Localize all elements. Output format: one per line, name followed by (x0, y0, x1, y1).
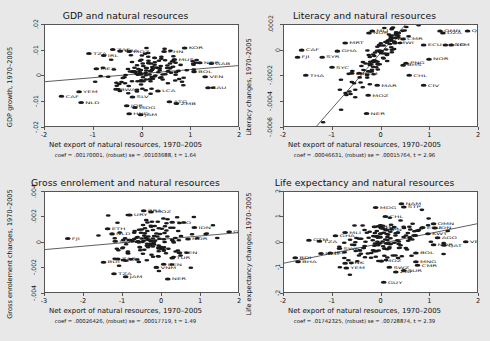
y-tick-mark (41, 101, 44, 102)
data-point: YEM (448, 43, 470, 47)
y-axis-label: Literacy changes, 1970–2005 (245, 39, 253, 136)
data-point: ECU (421, 43, 442, 47)
plot-box: BDIBHAGTMTZANLDIRLGHAMLISWEDNKYEMMDGCHLC… (283, 191, 478, 294)
svg-text:BEN: BEN (168, 262, 182, 266)
x-tick-mark (190, 127, 191, 130)
x-tick-mark (283, 293, 284, 296)
x-tick-mark (161, 293, 162, 296)
y-tick-label: -.0002 (260, 72, 280, 79)
x-tick-mark (122, 293, 123, 296)
x-tick-mark (283, 127, 284, 130)
svg-text:IDN: IDN (439, 225, 452, 229)
svg-text:CHL: CHL (389, 214, 404, 218)
data-point: TGO (169, 220, 192, 224)
data-point: NLD (109, 231, 130, 235)
data-point: JPN (384, 227, 402, 232)
data-point: STP (401, 205, 422, 209)
data-point: MEX (93, 67, 115, 71)
svg-text:CAF: CAF (306, 48, 320, 52)
svg-text:IRL: IRL (334, 250, 346, 254)
y-tick-label: -.002 (25, 264, 41, 271)
data-point: SEN (177, 250, 198, 254)
svg-text:ECU: ECU (428, 43, 442, 47)
svg-text:NOR: NOR (192, 237, 208, 241)
x-tick-mark (332, 293, 333, 296)
x-axis-label: Net export of natural resources, 1970–20… (6, 307, 245, 315)
x-tick-label: -1 (89, 131, 96, 139)
svg-text:NLD: NLD (85, 100, 99, 104)
x-axis-label: Net export of natural resources, 1970–20… (245, 307, 484, 315)
scatter-svg-lifeexp: BDIBHAGTMTZANLDIRLGHAMLISWEDNKYEMMDGCHLC… (284, 192, 477, 293)
svg-text:MAR: MAR (381, 83, 397, 87)
x-tick-mark (44, 127, 45, 130)
y-tick-label: -.0006 (260, 123, 280, 130)
svg-text:VEN: VEN (470, 239, 477, 243)
data-point: MLI (369, 29, 388, 33)
panel-lifeexp: Life expectancy and natural resources Li… (245, 171, 484, 338)
svg-text:MLI: MLI (349, 230, 361, 234)
y-axis-label: Life expectancy changes, 1970–2005 (245, 192, 253, 315)
data-point: BOL (191, 70, 213, 74)
data-point: DZA (440, 31, 462, 35)
x-tick-label: 1 (427, 131, 431, 139)
data-point: BOL (413, 250, 435, 254)
plot-area-wrap: FJIBDIETHNLDSWEZARJORBRAURYMOZTZAJAMVNMB… (44, 191, 239, 294)
x-tick-mark (239, 127, 240, 130)
x-tick-mark (478, 293, 479, 296)
x-tick-mark (478, 127, 479, 130)
data-point: KOR (182, 46, 204, 50)
svg-text:ETH: ETH (112, 226, 126, 230)
svg-text:VEN: VEN (209, 75, 223, 79)
svg-text:ZMB: ZMB (180, 101, 196, 105)
x-tick-mark (200, 293, 201, 296)
svg-text:BWA: BWA (120, 87, 136, 91)
svg-text:YEM: YEM (362, 71, 378, 75)
y-tick-mark (280, 242, 283, 243)
data-point: GHA (334, 49, 357, 53)
x-tick-mark (381, 293, 382, 296)
y-axis-label: Gross enrolement changes, 1970–2005 (6, 189, 14, 319)
x-tick-label: 1 (188, 131, 192, 139)
panel-enrolment: Gross enrolement and natural resources G… (6, 171, 245, 338)
data-point: MDG (373, 205, 397, 209)
data-point: SUR (401, 268, 422, 272)
data-point: QAT (465, 29, 477, 33)
data-point: MOZ (126, 50, 149, 54)
data-point: DNK (342, 261, 364, 265)
x-tick-label: -2 (280, 297, 287, 305)
data-point: IDN (191, 225, 210, 229)
y-tick-label: .0002 (262, 21, 280, 28)
data-point: CIV (421, 83, 440, 87)
data-point: BHA (295, 259, 317, 263)
y-tick-mark (280, 101, 283, 102)
svg-text:MDG: MDG (139, 105, 156, 109)
data-point: YEM (343, 265, 365, 269)
panel-title: Gross enrolement and natural resources (6, 177, 245, 188)
svg-text:MOZ: MOZ (372, 93, 388, 97)
x-tick-label: -3 (41, 297, 48, 305)
x-tick-mark (239, 293, 240, 296)
data-point: CHL (382, 214, 404, 218)
x-axis-label: Net export of natural resources, 1970–20… (245, 141, 484, 149)
svg-text:MWI: MWI (399, 41, 414, 45)
x-tick-mark (142, 127, 143, 130)
svg-text:LCA: LCA (162, 89, 176, 93)
data-point: SLV (130, 95, 149, 99)
data-point: TUR (169, 255, 190, 259)
scatter-svg-gdp: CAFYEMNLDTZAMEXIRLZAFBRABWAMOZJORHNDSLVM… (45, 25, 238, 126)
x-tick-label: 2 (237, 131, 241, 139)
data-point: MOZ (148, 209, 171, 213)
svg-text:CHN: CHN (168, 50, 183, 54)
x-tick-label: 1 (427, 297, 431, 305)
plot-area-wrap: CAFYEMNLDTZAMEXIRLZAFBRABWAMOZJORHNDSLVM… (44, 24, 239, 127)
y-tick-label: -.02 (29, 123, 41, 130)
svg-text:FJI: FJI (302, 55, 311, 60)
plot-box: CAFFJITHASYRGHAMRTSYCLBRYEMNORMLIMARMOZN… (283, 24, 478, 127)
x-tick-label: -2 (41, 131, 48, 139)
y-tick-label: -.01 (29, 97, 41, 104)
plot-box: FJIBDIETHNLDSWEZARJORBRAURYMOZTZAJAMVNMB… (44, 191, 239, 294)
svg-text:STP: STP (408, 205, 422, 209)
data-point: VEN (202, 75, 223, 79)
y-tick-mark (280, 216, 283, 217)
svg-text:IDN: IDN (198, 225, 211, 229)
